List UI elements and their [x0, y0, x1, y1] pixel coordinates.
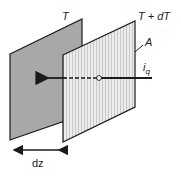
- label-area: A: [145, 37, 152, 48]
- label-flux-sub: q: [145, 67, 149, 76]
- label-t-left: T: [62, 11, 69, 22]
- area-leader: [135, 45, 143, 52]
- diagram-canvas: [0, 0, 181, 176]
- label-thickness: dz: [32, 158, 44, 169]
- flux-point: [97, 76, 102, 81]
- label-flux: iq: [143, 62, 150, 76]
- label-t-right: T + dT: [138, 11, 170, 22]
